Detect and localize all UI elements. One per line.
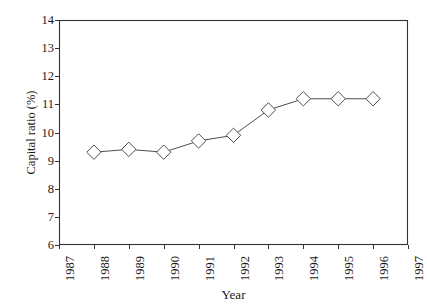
plot-area [0, 0, 427, 308]
chart-figure: Capital ratio (%) 67891011121314 1987198… [0, 0, 427, 308]
